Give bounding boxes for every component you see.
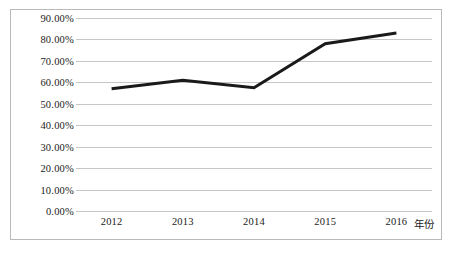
y-tick-label: 30.00% [40, 141, 74, 152]
x-tick-label: 2015 [314, 216, 336, 227]
x-tick-label: 2012 [101, 216, 123, 227]
x-tick-label: 2014 [243, 216, 265, 227]
y-tick-label: 10.00% [40, 184, 74, 195]
gridline [76, 211, 432, 212]
chart-figure: 90.00% 80.00% 70.00% 60.00% 50.00% 40.00… [0, 0, 453, 253]
y-tick-label: 90.00% [40, 13, 74, 24]
y-tick-label: 70.00% [40, 55, 74, 66]
y-tick-label: 80.00% [40, 34, 74, 45]
x-axis-title: 年份 [414, 216, 434, 231]
y-tick-label: 50.00% [40, 98, 74, 109]
x-tick-label: 2013 [172, 216, 194, 227]
y-tick-label: 60.00% [40, 77, 74, 88]
line-series-plot [76, 18, 432, 211]
x-axis-tick-labels: 2012 2013 2014 2015 2016 [76, 216, 432, 236]
y-tick-label: 40.00% [40, 120, 74, 131]
data-series-line [112, 33, 397, 89]
y-tick-label: 20.00% [40, 163, 74, 174]
y-axis-tick-labels: 90.00% 80.00% 70.00% 60.00% 50.00% 40.00… [10, 18, 74, 211]
x-tick-label: 2016 [385, 216, 407, 227]
y-tick-label: 0.00% [46, 206, 74, 217]
plot-area [76, 18, 432, 211]
